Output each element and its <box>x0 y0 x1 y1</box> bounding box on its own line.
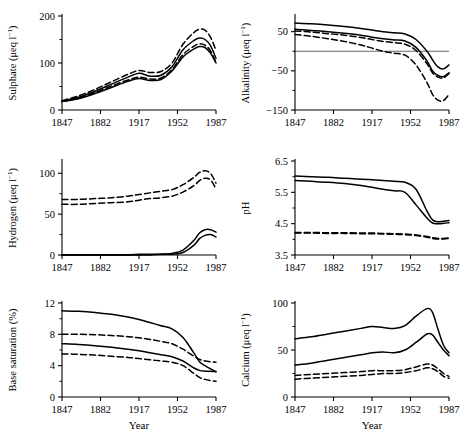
x-tick-label: 1952 <box>400 262 421 273</box>
y-tick-label: 100 <box>272 298 288 309</box>
x-axis-title: Year <box>129 419 150 430</box>
y-axis-title-group: Hydrogen (μeq l−1) <box>6 167 19 248</box>
x-tick-label: 1882 <box>323 117 344 128</box>
y-tick-label: 100 <box>39 58 55 69</box>
y-tick-label: 5.5 <box>275 187 288 198</box>
x-tick-label: 1882 <box>90 117 111 128</box>
y-axis-title: Base saturation (%) <box>7 308 19 391</box>
x-tick-label: 1987 <box>206 262 227 273</box>
x-tick-label: 1847 <box>52 404 73 415</box>
y-tick-label: 50 <box>278 345 289 356</box>
x-tick-label: 1952 <box>400 404 421 415</box>
chart-panel-sulphate: 010020018471882191719521987Sulphate (μeq… <box>0 0 233 143</box>
chart-panel-alkalinity: 50−50−15018471882191719521987Alkalinity … <box>233 0 466 143</box>
x-tick-label: 1847 <box>285 404 306 415</box>
x-tick-label: 1917 <box>129 404 150 415</box>
series-line-b <box>295 180 449 223</box>
y-tick-label: 50 <box>45 209 56 220</box>
y-tick-label: 6.5 <box>275 156 288 167</box>
x-tick-label: 1847 <box>52 117 73 128</box>
y-tick-label: 8 <box>50 329 55 340</box>
y-axis-title: Calcium (μeq l−1) <box>239 313 252 387</box>
x-tick-label: 1882 <box>90 262 111 273</box>
series-group <box>62 171 216 255</box>
x-tick-label: 1952 <box>167 117 188 128</box>
x-tick-label: 1882 <box>323 262 344 273</box>
y-tick-label: −50 <box>272 65 288 76</box>
chart-panel-calcium: 05010018471882191719521987Calcium (μeq l… <box>233 287 466 430</box>
series-line-b <box>295 333 449 365</box>
x-tick-label: 1917 <box>129 117 150 128</box>
x-tick-label: 1987 <box>439 117 460 128</box>
y-tick-label: 3.5 <box>275 250 288 261</box>
y-tick-label: 0 <box>283 392 288 403</box>
y-axis-title-group: pH <box>240 201 251 214</box>
series-line-a <box>62 311 216 372</box>
series-line-d <box>295 34 449 101</box>
chart-panel-hydrogen: 05010018471882191719521987Hydrogen (μeq … <box>0 145 233 288</box>
y-tick-label: 50 <box>278 26 289 37</box>
x-tick-label: 1952 <box>400 117 421 128</box>
y-tick-label: 4.5 <box>275 218 288 229</box>
y-axis-title: Sulphate (μeq l−1) <box>6 25 19 100</box>
x-tick-label: 1917 <box>362 404 383 415</box>
x-tick-label: 1847 <box>285 262 306 273</box>
x-tick-label: 1882 <box>90 404 111 415</box>
x-tick-label: 1882 <box>323 404 344 415</box>
chart-panel-base_saturation: 0481218471882191719521987Base saturation… <box>0 287 233 430</box>
series-group <box>62 311 216 382</box>
y-axis-title-group: Sulphate (μeq l−1) <box>6 25 19 100</box>
x-tick-label: 1987 <box>439 404 460 415</box>
y-axis-title-group: Alkalinity (μeq l−1) <box>239 22 252 103</box>
series-line-c <box>62 229 216 255</box>
series-line-a <box>295 308 449 352</box>
y-tick-label: 12 <box>45 298 56 309</box>
series-group <box>62 29 216 102</box>
x-axis-title: Year <box>362 419 383 430</box>
x-tick-label: 1917 <box>362 117 383 128</box>
y-axis-title: Hydrogen (μeq l−1) <box>6 167 19 248</box>
y-tick-label: 0 <box>50 105 55 116</box>
x-tick-label: 1952 <box>167 404 188 415</box>
series-line-d <box>62 234 216 255</box>
y-tick-label: 200 <box>39 11 55 22</box>
chart-panel-ph: 3.54.55.56.518471882191719521987pH <box>233 145 466 288</box>
x-tick-label: 1987 <box>206 404 227 415</box>
series-group <box>295 23 449 101</box>
y-axis-title-group: Base saturation (%) <box>7 308 19 391</box>
series-line-a <box>295 176 449 222</box>
x-tick-label: 1917 <box>362 262 383 273</box>
series-line-b <box>295 29 449 77</box>
y-tick-label: 0 <box>50 250 55 261</box>
x-tick-label: 1847 <box>285 117 306 128</box>
series-line-a <box>62 29 216 101</box>
y-tick-label: 0 <box>50 392 55 403</box>
x-tick-label: 1847 <box>52 262 73 273</box>
x-tick-label: 1987 <box>439 262 460 273</box>
series-line-b <box>62 178 216 204</box>
y-tick-label: 4 <box>50 360 56 371</box>
series-group <box>295 308 449 379</box>
series-group <box>295 176 449 239</box>
y-axis-title-group: Calcium (μeq l−1) <box>239 313 252 387</box>
x-tick-label: 1917 <box>129 262 150 273</box>
figure-panel-grid: 010020018471882191719521987Sulphate (μeq… <box>0 0 466 430</box>
series-line-c <box>62 344 216 372</box>
series-line-a <box>62 171 216 200</box>
y-tick-label: −150 <box>266 105 288 116</box>
y-axis-title: pH <box>240 201 251 214</box>
x-tick-label: 1952 <box>167 262 188 273</box>
x-tick-label: 1987 <box>206 117 227 128</box>
y-axis-title: Alkalinity (μeq l−1) <box>239 22 252 103</box>
y-tick-label: 100 <box>39 168 55 179</box>
